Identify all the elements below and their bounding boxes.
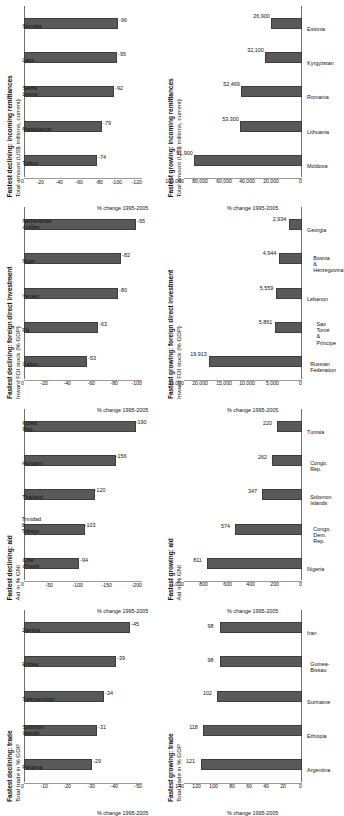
axis-ticks: 0-20-40-60-80-100-120: [24, 180, 142, 198]
bar-value-label: 347: [248, 488, 257, 493]
bar-item: -92: [24, 86, 142, 97]
axis-tick-label: 0: [300, 179, 303, 185]
bar-value-label: -31: [98, 724, 106, 730]
axis-tick-label: 40: [263, 783, 269, 789]
bar-item: 811: [184, 558, 302, 569]
bar-value-label: 19,913: [191, 352, 208, 357]
category-label: Ethiopia: [308, 733, 319, 739]
category-label: Netherlands Antilles: [22, 218, 33, 230]
axis-tick-label: 5,000: [266, 380, 279, 386]
chart-title: Fastest growing: trade: [167, 609, 175, 803]
axis-tick-label: -100: [112, 179, 122, 185]
category-label: Suriname: [308, 699, 319, 705]
chart-panel-declining-remittances: Fastest declining: incoming remittancesT…: [0, 0, 161, 202]
bar-item: 19,913: [184, 356, 302, 367]
bar: [277, 421, 303, 432]
bar-value-label: 811: [193, 557, 202, 562]
bar-value-label: 53,300: [222, 116, 239, 121]
bar-item: -74: [24, 155, 142, 166]
bar-value-label: 26,900: [253, 13, 270, 18]
category-label: Russian Federation: [311, 361, 322, 373]
axis-tick-label: 140: [176, 783, 185, 789]
axis-tick-label: 0: [300, 582, 303, 588]
axis-tick-label: -60: [75, 179, 83, 185]
chart-subtitle: Total trade in % GDP: [175, 609, 183, 803]
bar-series: -53-63-80-82-95: [24, 208, 142, 380]
axis-tick-label: -40: [64, 380, 72, 386]
category-label: Thailand: [22, 494, 33, 500]
bar: [217, 691, 303, 702]
bar-item: 118: [184, 725, 302, 736]
category-labels: ArgentinaEthiopiaSurinameGuinea-BissauIr…: [304, 611, 316, 783]
axis-tick-label: 0: [300, 783, 303, 789]
bar-value-label: -80: [119, 287, 127, 293]
axis-tick-label: 20: [280, 783, 286, 789]
axis-tick-label: -80: [111, 380, 119, 386]
category-label: Guinea-Bissau: [311, 661, 322, 673]
chart-panel-growing-fdi: Fastest growing: foreign direct investme…: [161, 202, 322, 404]
axis-ticks: 0-10-20-30-40-50: [24, 784, 142, 802]
chart-subtitle: Aid in % GNI: [175, 407, 183, 601]
bar-value-label: 121: [186, 758, 195, 763]
axis-tick-label: 0: [21, 179, 24, 185]
category-label: Kyrgyzstan: [308, 60, 319, 66]
bar-value-label: 102: [203, 690, 212, 695]
bar-value-label: -156: [116, 453, 127, 459]
bar-value-label: 52,469: [223, 82, 240, 87]
bar-item: 5,861: [184, 322, 302, 333]
bar-item: -94: [24, 558, 142, 569]
axis-tick-label: 0: [21, 783, 24, 789]
bar-value-label: -92: [116, 85, 124, 91]
axis-tick-label: -50: [134, 783, 142, 789]
bar-item: 32,100: [184, 52, 302, 63]
bar-item: -80: [24, 288, 142, 299]
axis-tick-label: -200: [132, 582, 142, 588]
bar-item: -39: [24, 656, 142, 667]
axis-ticks: 05,00010,00015,00020,00025,000: [184, 381, 302, 399]
category-label: Lebanon: [308, 296, 319, 302]
bar-series: 811574347262220: [184, 409, 302, 581]
axis-tick-label: 0: [21, 380, 24, 386]
axis-ticks: 0-20-40-60-80-100: [24, 381, 142, 399]
axis-title: % change 1995-2005: [97, 407, 148, 413]
axis-tick-label: -20: [36, 179, 44, 185]
axis-ticks: 020406080100120140: [184, 784, 302, 802]
axis-title: % change 1995-2005: [227, 206, 278, 212]
bar-value-label: -63: [99, 321, 107, 327]
axis-tick-label: -20: [64, 783, 72, 789]
bar-item: -95: [24, 52, 142, 63]
category-label: Congo, Rep.: [311, 460, 322, 472]
bar-value-label: -190: [136, 418, 147, 424]
category-label: Moldova: [308, 163, 319, 169]
bar: [240, 121, 303, 132]
axis-tick-label: 25,000: [169, 380, 185, 386]
bar-item: -63: [24, 322, 142, 333]
axis-tick-label: -20: [40, 380, 48, 386]
axis-tick-label: 120: [193, 783, 202, 789]
axis-tick-label: 20,000: [263, 179, 279, 185]
category-label: Korea, Rep.: [22, 419, 33, 431]
axis-tick-label: -60: [87, 380, 95, 386]
axis-tick-label: 100,000: [166, 179, 185, 185]
bar-value-label: -120: [94, 487, 105, 493]
bar-item: -53: [24, 356, 142, 367]
axis-tick-label: -40: [111, 783, 119, 789]
bar: [24, 52, 117, 63]
category-label: Tunisia: [308, 429, 319, 435]
plot-area: 0-50-100-150-200-94-103-120-156-190Côte …: [24, 407, 142, 601]
bar: [271, 18, 303, 29]
bar: [24, 253, 121, 264]
category-label: Madagascar: [22, 125, 33, 131]
bar: [24, 86, 114, 97]
bar-item: -96: [24, 18, 142, 29]
category-label: Turkmenistan: [22, 696, 33, 702]
axis-tick-label: -120: [132, 179, 142, 185]
bar-value-label: -95: [118, 51, 126, 57]
bar-value-label: -94: [81, 557, 89, 563]
category-label: Laos: [22, 57, 33, 63]
axis-tick-label: -30: [87, 783, 95, 789]
chart-panel-declining-fdi: Fastest declining: foreign direct invest…: [0, 202, 161, 404]
bar-value-label: 4,944: [263, 250, 277, 255]
axis-title: % change 1995-2005: [97, 206, 148, 212]
